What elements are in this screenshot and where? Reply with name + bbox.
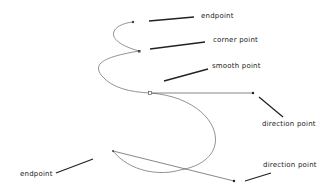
endpoint-top-marker — [132, 21, 134, 23]
leader-corner-point — [150, 42, 205, 49]
corner-point-marker — [138, 50, 141, 53]
label-direction-point-bottom: direction point — [263, 161, 317, 169]
direction-point-right-marker — [252, 92, 254, 94]
label-smooth-point: smooth point — [212, 62, 261, 70]
direction-line-bottom — [113, 151, 234, 181]
leader-smooth-point — [164, 69, 208, 81]
leader-endpoint-bottom — [56, 159, 93, 173]
direction-point-bottom-marker — [233, 180, 235, 182]
leader-endpoint-top — [149, 17, 194, 21]
leader-direction-point-bottom — [245, 173, 271, 181]
smooth-point-marker — [149, 92, 152, 95]
label-endpoint-top: endpoint — [201, 12, 234, 20]
bezier-curve — [98, 22, 215, 173]
label-endpoint-bottom: endpoint — [20, 170, 53, 178]
label-corner-point: corner point — [213, 36, 258, 44]
label-direction-point-right: direction point — [262, 120, 316, 128]
endpoint-bottom-marker — [112, 150, 114, 152]
leader-direction-point-right — [259, 97, 283, 117]
